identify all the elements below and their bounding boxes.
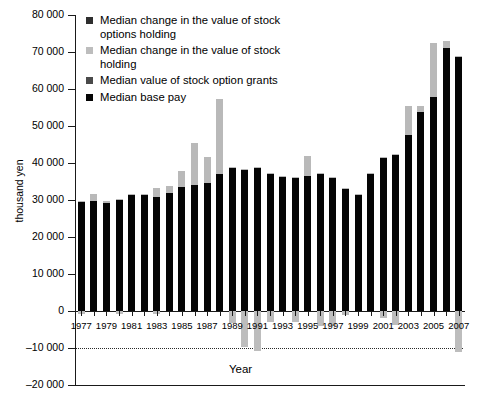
bar-segment — [367, 173, 374, 174]
bar-segment — [267, 173, 274, 311]
x-axis-tick — [257, 311, 258, 316]
bar-segment — [317, 173, 324, 311]
bar-segment — [279, 176, 286, 177]
bar-segment — [417, 106, 424, 112]
bar-segment — [216, 174, 223, 311]
bar-segment — [128, 195, 135, 311]
bar-segment — [317, 173, 324, 174]
bar-segment — [116, 200, 123, 311]
x-axis-tick — [446, 311, 447, 316]
bar-segment — [241, 169, 248, 311]
bar-segment-negative — [455, 311, 462, 352]
bar-segment — [455, 57, 462, 311]
x-axis-tick — [408, 311, 409, 316]
bar-segment — [216, 99, 223, 175]
legend-swatch-icon — [86, 94, 93, 101]
bar-segment — [392, 154, 399, 155]
bar-segment — [292, 177, 299, 178]
x-axis-tick — [195, 311, 196, 316]
x-axis-title: Year — [0, 363, 481, 375]
x-axis-tick — [81, 311, 82, 316]
x-axis-tick — [232, 311, 233, 316]
legend-swatch-icon — [86, 17, 93, 24]
x-axis-tick — [169, 311, 170, 316]
x-axis-tick — [396, 311, 397, 316]
x-axis-tick — [270, 311, 271, 316]
bar-segment — [254, 167, 261, 168]
legend-swatch-icon — [86, 77, 93, 84]
y-axis-tick — [68, 237, 75, 238]
y-axis-tick — [68, 274, 75, 275]
bar-segment — [329, 177, 336, 178]
y-axis-tick — [68, 15, 75, 16]
y-axis-tick — [68, 311, 75, 312]
x-axis-tick — [144, 311, 145, 316]
x-axis-tick — [320, 311, 321, 316]
bar-segment — [191, 143, 198, 185]
bar-segment — [191, 185, 198, 311]
legend-item-label: Median value of stock option grants — [100, 74, 316, 88]
bar-segment — [90, 194, 97, 201]
bar-segment — [78, 202, 85, 311]
legend-item: Median value of stock option grants — [86, 74, 316, 88]
y-axis-tick-label: 40 000 — [0, 157, 64, 168]
x-axis-tick — [207, 311, 208, 316]
bar-segment — [90, 201, 97, 311]
bar-segment — [241, 169, 248, 170]
bar-segment-negative — [254, 311, 261, 351]
x-axis-tick — [182, 311, 183, 316]
x-axis-tick — [383, 311, 384, 316]
x-axis-tick — [421, 311, 422, 316]
x-axis-tick — [434, 311, 435, 316]
y-axis-tick-label: –20 000 — [0, 379, 64, 390]
legend-item-label: Median change in the value of stock hold… — [100, 44, 316, 71]
bar-segment — [455, 56, 462, 57]
bar-segment — [229, 168, 236, 311]
bar-segment — [204, 183, 211, 311]
x-axis-tick — [459, 311, 460, 316]
y-axis-tick-label: 80 000 — [0, 9, 64, 20]
y-axis-tick — [68, 52, 75, 53]
bar-segment — [103, 201, 110, 202]
bar-segment — [405, 106, 412, 135]
y-axis-tick — [68, 200, 75, 201]
x-axis-tick — [106, 311, 107, 316]
bar-segment — [292, 178, 299, 311]
y-axis-tick-label: 50 000 — [0, 120, 64, 131]
x-axis-tick — [157, 311, 158, 316]
x-axis-tick — [308, 311, 309, 316]
y-axis-tick-label: 0 — [0, 305, 64, 316]
bar-segment — [342, 188, 349, 189]
bar-segment — [304, 176, 311, 311]
bar-segment — [267, 173, 274, 174]
y-axis-tick-label: 30 000 — [0, 194, 64, 205]
bar-segment — [153, 197, 160, 311]
x-axis-tick — [333, 311, 334, 316]
x-axis-tick — [119, 311, 120, 316]
y-axis-tick — [68, 89, 75, 90]
bar-segment — [204, 157, 211, 183]
x-axis-tick — [220, 311, 221, 316]
bar-segment — [405, 135, 412, 311]
bar-segment — [141, 194, 148, 195]
bar-segment — [355, 194, 362, 195]
y-axis-tick-label: 60 000 — [0, 83, 64, 94]
x-axis-tick — [132, 311, 133, 316]
y-axis-tick — [68, 163, 75, 164]
bar-segment — [178, 187, 185, 311]
bar-segment — [229, 167, 236, 168]
bar-segment — [392, 154, 399, 311]
bar-segment — [443, 48, 450, 311]
x-axis-tick — [345, 311, 346, 316]
bar-segment — [279, 176, 286, 311]
y-axis-tick-label: 10 000 — [0, 268, 64, 279]
chart-legend: Median change in the value of stock opti… — [86, 14, 316, 107]
bar-segment — [430, 43, 437, 97]
bar-segment — [342, 189, 349, 311]
bar-segment — [103, 203, 110, 311]
x-axis-tick — [283, 311, 284, 316]
x-axis-tick — [94, 311, 95, 316]
bar-segment — [430, 97, 437, 311]
bar-segment — [78, 201, 85, 202]
bar-segment — [380, 158, 387, 311]
